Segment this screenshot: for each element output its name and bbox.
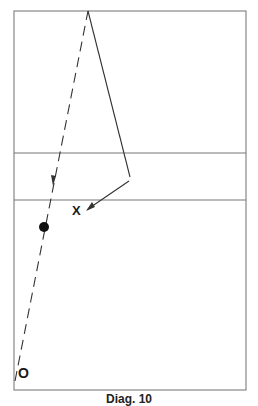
- player-x-label: X: [72, 204, 81, 217]
- arrowhead-icon: [86, 202, 95, 211]
- diagram-caption: Diag. 10: [0, 392, 258, 406]
- solid-path: [88, 11, 130, 177]
- ball-dot-icon: [39, 222, 49, 232]
- player-o-label: O: [18, 366, 29, 380]
- dashed-path: [15, 11, 88, 381]
- arrow-path: [88, 181, 129, 209]
